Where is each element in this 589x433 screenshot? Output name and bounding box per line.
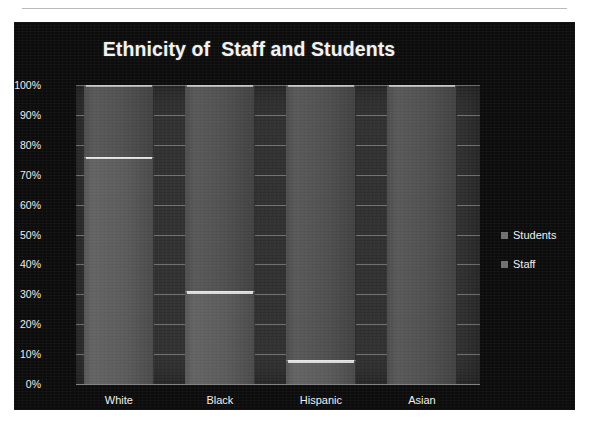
x-axis-label-white: White: [105, 394, 133, 406]
legend-label: Students: [513, 229, 556, 241]
x-axis-label-black: Black: [206, 394, 233, 406]
y-axis-tick-label: 30%: [14, 288, 41, 300]
gridline: [76, 384, 480, 385]
chart-legend: StudentsStaff: [501, 229, 556, 287]
y-axis-tick-label: 10%: [14, 348, 41, 360]
y-axis-tick-label: 40%: [14, 258, 41, 270]
x-axis-label-hispanic: Hispanic: [300, 394, 342, 406]
legend-item-staff[interactable]: Staff: [501, 258, 556, 270]
page-top-rule: [22, 8, 567, 9]
y-axis-tick-label: 80%: [14, 139, 41, 151]
legend-swatch-icon: [501, 261, 508, 268]
y-axis-tick-label: 60%: [14, 199, 41, 211]
x-axis-label-asian: Asian: [408, 394, 436, 406]
bar-staff-black[interactable]: [185, 291, 256, 384]
chart-title: Ethnicity of Staff and Students: [14, 38, 484, 61]
legend-item-students[interactable]: Students: [501, 229, 556, 241]
bar-students-hispanic[interactable]: [286, 85, 357, 384]
y-axis-tick-label: 100%: [14, 79, 41, 91]
bar-students-asian[interactable]: [387, 85, 458, 384]
plot-area: [76, 85, 480, 384]
y-axis-tick-label: 20%: [14, 318, 41, 330]
y-axis-tick-label: 50%: [14, 229, 41, 241]
legend-label: Staff: [513, 258, 535, 270]
bar-staff-hispanic[interactable]: [286, 360, 357, 384]
bar-staff-white[interactable]: [84, 157, 155, 384]
y-axis-tick-label: 0%: [14, 378, 41, 390]
legend-swatch-icon: [501, 232, 508, 239]
y-axis-tick-label: 90%: [14, 109, 41, 121]
chart-image: Ethnicity of Staff and Students Students…: [14, 22, 575, 410]
y-axis-tick-label: 70%: [14, 169, 41, 181]
